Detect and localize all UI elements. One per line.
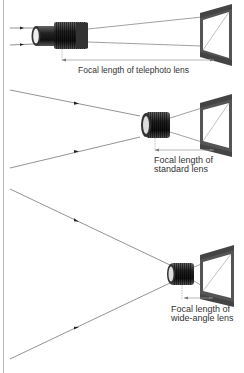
telephoto-focal-label: Focal length of telephoto lens: [78, 66, 189, 75]
arrow-icon: [74, 218, 79, 221]
ray-top: [88, 17, 202, 29]
telephoto-lens-icon: [32, 22, 89, 49]
standard-focal-label-line2: standard lens: [154, 165, 208, 174]
standard-lens-icon: [141, 112, 170, 138]
wide-angle-lens-icon: [167, 263, 194, 285]
arrow-icon: [20, 43, 24, 46]
film-frame-icon: [200, 94, 232, 157]
arrow-icon: [155, 149, 159, 152]
arrow-icon: [62, 59, 66, 62]
wide-angle-focal-label-line2: wide-angle lens: [171, 314, 234, 323]
film-frame-icon: [200, 0, 232, 66]
arrow-icon: [74, 102, 79, 105]
telephoto-panel: [10, 0, 232, 66]
arrow-icon: [20, 27, 24, 30]
ray-bottom: [10, 283, 170, 359]
arrow-icon: [74, 327, 79, 330]
ray-top: [10, 189, 170, 265]
ray-bottom: [170, 132, 202, 142]
arrow-icon: [184, 297, 188, 300]
ray-bottom: [88, 42, 202, 46]
wide-angle-panel: [10, 189, 234, 359]
ray-top: [170, 108, 202, 118]
